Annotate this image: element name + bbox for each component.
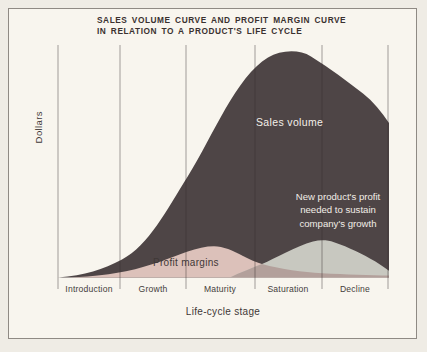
new-product-profit-label-line1: New product's profit — [276, 190, 400, 203]
new-product-profit-label: New product's profit needed to sustain c… — [276, 190, 400, 230]
y-axis-label: Dollars — [33, 111, 44, 143]
chart-title-line2: IN RELATION TO A PRODUCT'S LIFE CYCLE — [97, 26, 346, 37]
x-axis-label: Life-cycle stage — [163, 306, 283, 317]
chart-canvas — [0, 0, 427, 352]
chart-title: SALES VOLUME CURVE AND PROFIT MARGIN CUR… — [97, 15, 346, 38]
sales-volume-label: Sales volume — [256, 116, 323, 128]
figure: SALES VOLUME CURVE AND PROFIT MARGIN CUR… — [0, 0, 427, 352]
new-product-profit-label-line2: needed to sustain — [276, 203, 400, 216]
new-product-profit-label-line3: company's growth — [276, 217, 400, 230]
stage-label-decline: Decline — [315, 284, 395, 294]
chart-title-line1: SALES VOLUME CURVE AND PROFIT MARGIN CUR… — [97, 15, 346, 26]
profit-margins-label: Profit margins — [153, 257, 219, 268]
